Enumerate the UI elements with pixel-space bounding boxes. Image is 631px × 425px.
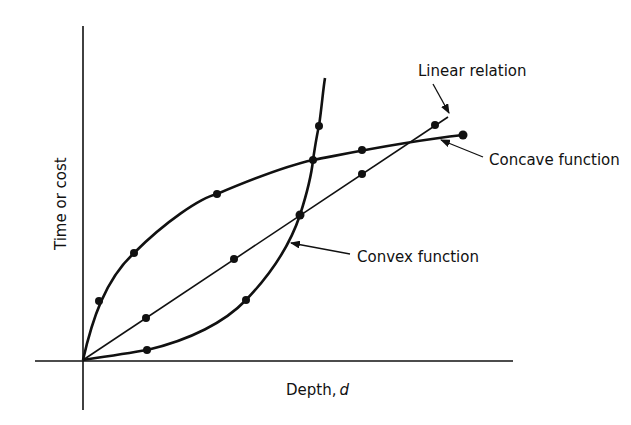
x-axis-symbol: d — [339, 381, 349, 399]
linear-relation-label: Linear relation — [418, 62, 527, 80]
convex-function-curve — [83, 78, 325, 360]
linear-relation-line — [83, 117, 448, 360]
y-axis-label: Time or cost — [52, 157, 70, 251]
x-axis-label-text: Depth, — [286, 381, 336, 399]
convex-function-label: Convex function — [357, 248, 479, 266]
concave-points — [95, 131, 468, 306]
convex-arrow-icon — [291, 243, 350, 254]
concave-arrow-icon — [441, 140, 483, 157]
concave-function-label: Concave function — [489, 151, 620, 169]
convex-points — [143, 122, 323, 354]
depth-cost-diagram: Linear relation Concave function Convex … — [0, 0, 631, 425]
x-axis-label: Depth,d — [286, 381, 349, 399]
linear-arrow-icon — [433, 84, 449, 113]
